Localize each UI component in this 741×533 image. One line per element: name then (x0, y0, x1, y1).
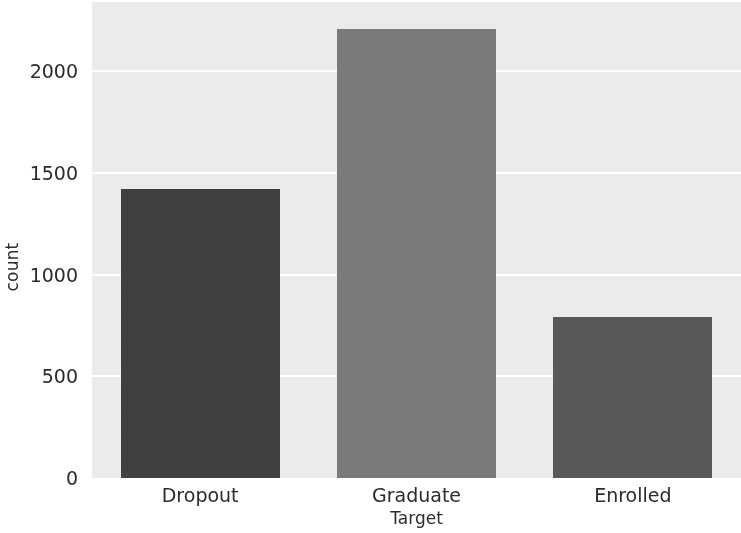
x-tick-label: Graduate (372, 484, 461, 506)
plot-area (92, 2, 741, 478)
y-axis-tick-labels: 0500100015002000 (0, 0, 88, 533)
bar-enrolled (553, 317, 712, 479)
bar-graduate (337, 29, 496, 478)
x-axis-label-text: Target (390, 508, 443, 528)
x-axis-label: Target (92, 508, 741, 528)
bar-chart-figure: count 0500100015002000 DropoutGraduateEn… (0, 0, 741, 533)
bar-dropout (121, 189, 280, 478)
x-tick-label: Dropout (162, 484, 239, 506)
x-tick-label: Enrolled (594, 484, 671, 506)
y-tick-label: 2000 (30, 60, 78, 82)
y-tick-label: 1000 (30, 264, 78, 286)
y-tick-label: 1500 (30, 162, 78, 184)
y-tick-label: 0 (66, 467, 78, 489)
y-tick-label: 500 (42, 365, 78, 387)
